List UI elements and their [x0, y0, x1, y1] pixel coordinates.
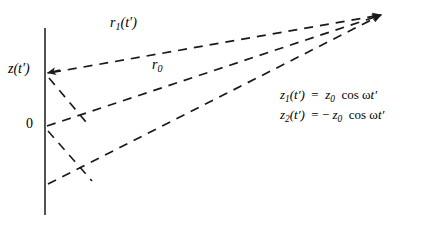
physics-diagram-figure: r1(t′) r0 z(t′) 0 z1(t′) = z0 cos ωt′ z2… [0, 0, 433, 225]
ray-label-r0: r0 [152, 58, 163, 74]
z-position-label: z(t′) [8, 62, 30, 76]
origin-label: 0 [26, 117, 33, 131]
ray-r1-line [52, 15, 381, 73]
ray-label-r1: r1(t′) [110, 16, 137, 32]
equation-z2: z2(t′) = − z0 cos ωt′ [280, 108, 384, 124]
equation-z1: z1(t′) = z0 cos ωt′ [280, 88, 377, 104]
connector-upper-line [49, 78, 86, 122]
